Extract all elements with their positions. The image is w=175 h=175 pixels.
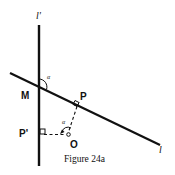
label-p: P bbox=[80, 91, 87, 102]
figure-caption: Figure 24a bbox=[64, 154, 106, 164]
point-o-marker bbox=[67, 133, 71, 137]
right-angle-marker-p-prime bbox=[40, 129, 45, 134]
segment-o-p-dashed bbox=[69, 107, 78, 133]
line-l bbox=[10, 73, 160, 145]
label-m: M bbox=[21, 90, 29, 101]
label-o: O bbox=[70, 139, 78, 150]
figure-24a-diagram: l' l M P P' O α α Figure 24a bbox=[0, 0, 175, 175]
label-l-prime: l' bbox=[36, 10, 42, 21]
label-l: l bbox=[159, 144, 162, 155]
label-alpha-bottom: α bbox=[62, 119, 66, 125]
angle-arrowhead bbox=[60, 130, 65, 135]
label-alpha-top: α bbox=[47, 74, 51, 80]
label-p-prime: P' bbox=[19, 128, 28, 139]
